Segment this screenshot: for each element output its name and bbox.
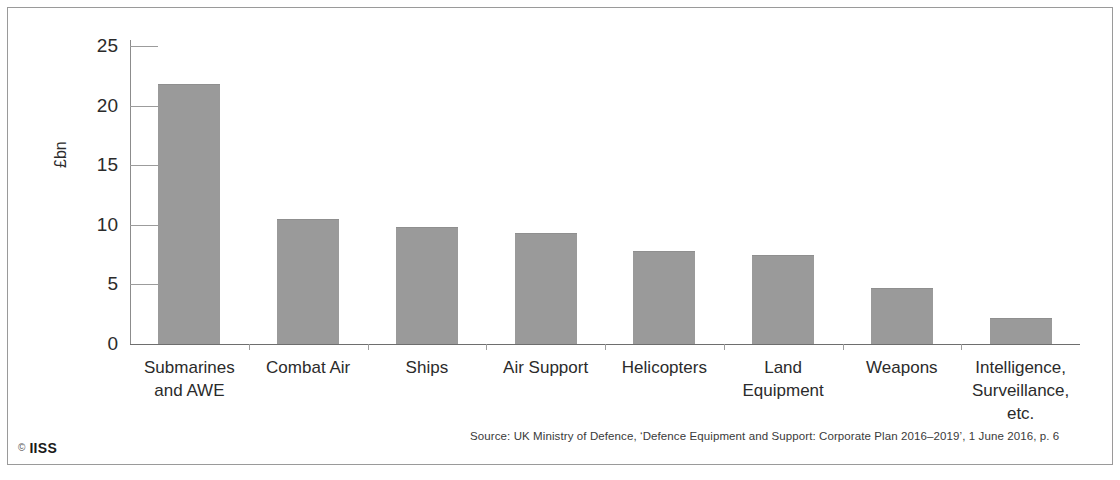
category-label-line: Helicopters bbox=[605, 356, 724, 379]
category-tick bbox=[605, 344, 606, 350]
y-axis-title: £bn bbox=[52, 141, 70, 168]
y-tick-label: 5 bbox=[107, 274, 118, 294]
category-tick bbox=[486, 344, 487, 350]
bar-slot bbox=[752, 46, 814, 344]
logo-text: IISS bbox=[29, 440, 57, 456]
copyright-icon: © bbox=[18, 443, 25, 453]
bar-slot bbox=[990, 46, 1052, 344]
bar-slot bbox=[396, 46, 458, 344]
bar-slot bbox=[158, 46, 220, 344]
category-label: Combat Air bbox=[249, 356, 368, 379]
category-label-line: Ships bbox=[368, 356, 487, 379]
y-tick-label: 15 bbox=[97, 155, 118, 175]
y-tick-label: 20 bbox=[97, 96, 118, 116]
bar[interactable] bbox=[990, 318, 1052, 344]
category-label-line: Surveillance, etc. bbox=[961, 379, 1080, 425]
bar-slot bbox=[277, 46, 339, 344]
y-tick-label: 25 bbox=[97, 36, 118, 56]
category-label-line: Land bbox=[724, 356, 843, 379]
bar-slot bbox=[633, 46, 695, 344]
bar[interactable] bbox=[396, 227, 458, 344]
bar[interactable] bbox=[158, 84, 220, 344]
category-label-line: Air Support bbox=[486, 356, 605, 379]
bar[interactable] bbox=[277, 219, 339, 344]
y-tick-label: 10 bbox=[97, 215, 118, 235]
category-label-line: Weapons bbox=[843, 356, 962, 379]
category-label: Ships bbox=[368, 356, 487, 379]
category-tick bbox=[724, 344, 725, 350]
bar[interactable] bbox=[515, 233, 577, 344]
category-label-line: Equipment bbox=[724, 379, 843, 402]
category-axis-labels: Submarinesand AWECombat AirShipsAir Supp… bbox=[130, 356, 1080, 416]
category-tick bbox=[249, 344, 250, 350]
category-tick bbox=[961, 344, 962, 350]
category-label-line: and AWE bbox=[130, 379, 249, 402]
category-tick bbox=[843, 344, 844, 350]
y-tick-label: 0 bbox=[107, 334, 118, 354]
category-label-line: Submarines bbox=[130, 356, 249, 379]
category-tick bbox=[368, 344, 369, 350]
bar[interactable] bbox=[871, 288, 933, 344]
chart-figure: £bn 0510152025 Submarinesand AWECombat A… bbox=[0, 0, 1120, 480]
y-tick-mark bbox=[130, 344, 158, 345]
bar-series bbox=[130, 46, 1080, 344]
bar-slot bbox=[515, 46, 577, 344]
category-label-line: Intelligence, bbox=[961, 356, 1080, 379]
category-label-line: Combat Air bbox=[249, 356, 368, 379]
category-label: Air Support bbox=[486, 356, 605, 379]
category-label: LandEquipment bbox=[724, 356, 843, 402]
iiss-logo: © IISS bbox=[18, 440, 57, 456]
category-label: Submarinesand AWE bbox=[130, 356, 249, 402]
category-label: Intelligence,Surveillance, etc. bbox=[961, 356, 1080, 425]
category-label: Weapons bbox=[843, 356, 962, 379]
category-label: Helicopters bbox=[605, 356, 724, 379]
bar-slot bbox=[871, 46, 933, 344]
source-note: Source: UK Ministry of Defence, ‘Defence… bbox=[470, 430, 1059, 442]
bar[interactable] bbox=[633, 251, 695, 344]
bar[interactable] bbox=[752, 255, 814, 344]
